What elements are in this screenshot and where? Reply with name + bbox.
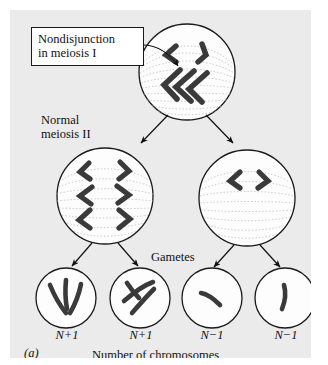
- figure-caption-bottom: Number of chromosomes: [92, 348, 219, 358]
- meiosis-I-cell: [139, 24, 235, 120]
- arrow-parent-to-left: [141, 115, 168, 143]
- arrow-right-to-gamete-4: [260, 245, 280, 267]
- callout-line-1: Nondisjunction: [38, 32, 115, 46]
- arrow-left-to-gamete-2: [118, 243, 138, 266]
- callout-line-2: in meiosis I: [38, 46, 96, 60]
- figure-root: Nondisjunction in meiosis I Normal meios…: [0, 0, 328, 365]
- normal-meiosis-line-2: meiosis II: [41, 127, 91, 141]
- figure-panel: Nondisjunction in meiosis I Normal meios…: [10, 10, 311, 358]
- arrow-right-to-gamete-3: [214, 245, 234, 267]
- ploidy-label-gamete-4: N−1: [256, 328, 311, 342]
- gamete-1: [36, 268, 96, 328]
- gametes-label: Gametes: [151, 250, 195, 264]
- normal-meiosis-label: Normal meiosis II: [41, 113, 121, 141]
- arrow-parent-to-right: [206, 115, 233, 143]
- ploidy-label-gamete-1: N+1: [37, 328, 97, 342]
- gamete-4: [255, 268, 311, 328]
- gamete-3: [182, 268, 242, 328]
- ploidy-label-gamete-2: N+1: [111, 328, 171, 342]
- ploidy-label-gamete-3: N−1: [182, 328, 242, 342]
- normal-meiosis-line-1: Normal: [41, 113, 79, 127]
- arrow-left-to-gamete-1: [72, 243, 92, 266]
- meiosis-II-cell-right: [199, 150, 295, 246]
- callout-nondisjunction-label: Nondisjunction in meiosis I: [31, 27, 144, 66]
- panel-letter-label: (a): [24, 346, 39, 358]
- meiosis-II-cell-left: [57, 148, 153, 244]
- gamete-2: [110, 268, 170, 328]
